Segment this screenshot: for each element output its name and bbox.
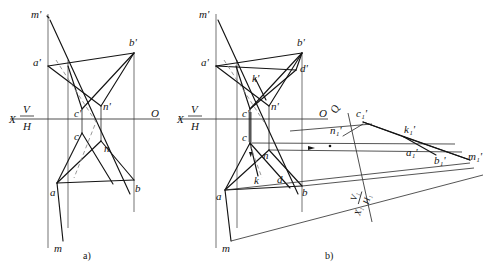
plane-direction-arrow: [308, 146, 315, 150]
edge-ap-bp: [48, 53, 134, 66]
label-a-h: H: [22, 120, 32, 132]
edge-cp-ap-side: [68, 66, 82, 109]
label-a-o: O: [151, 107, 159, 119]
label-a-c: c: [74, 130, 79, 142]
diagram-b: m' a' b' d' k' c' n' c n k d a b m c₁' k…: [176, 8, 483, 262]
plane-line-3: [269, 150, 462, 152]
label-b-x1: X₁: [352, 205, 364, 217]
line-mprime-frame: [48, 18, 73, 240]
label-b-a: a: [216, 190, 222, 202]
edge-b-c-a: [225, 143, 250, 190]
label-b-v1: V₁: [348, 191, 360, 202]
arrow-marker-b: [249, 152, 252, 157]
label-b-b-prime: b': [297, 36, 306, 48]
label-b-c-prime: c': [242, 107, 250, 119]
diagram-a: m' a' b' c' n' c n a b m X V H O a): [8, 8, 160, 262]
label-b-b: b: [302, 186, 308, 198]
label-b-k-prime: k': [252, 72, 260, 84]
label-b-x: X: [176, 113, 185, 125]
label-b-c: c: [242, 131, 247, 143]
edge-c-b: [82, 133, 113, 184]
plane-line-4: [302, 168, 474, 186]
label-b-c1-prime: c₁': [356, 107, 368, 119]
label-a-v: V: [23, 103, 31, 115]
label-a-c-prime: c': [74, 107, 82, 119]
label-b-n-prime: n': [271, 100, 280, 112]
label-b-n1-prime: n₁': [330, 124, 342, 136]
caption-b: b): [325, 250, 333, 262]
label-b-b1-prime: b₁': [434, 154, 446, 166]
label-b-a1-prime: a₁': [406, 146, 418, 158]
edge-n-a: [57, 141, 101, 183]
aux-axis-labels: X₁ V₁ H₁: [344, 189, 373, 219]
label-b-d: d: [277, 173, 283, 185]
line-m-to-a: [57, 183, 63, 241]
label-b-v: V: [191, 103, 199, 115]
label-b-k: k: [254, 174, 260, 186]
label-b-k1-prime: k₁': [404, 123, 416, 135]
label-b-m: m: [222, 242, 230, 254]
label-b-o: O: [319, 107, 327, 119]
edge-b-np-bp: [269, 53, 302, 106]
label-b-m-prime: m': [199, 8, 210, 20]
label-a-x: X: [8, 113, 17, 125]
edge-b-cp-side: [236, 66, 250, 109]
label-b-n: n: [263, 149, 269, 161]
tick-mprime: [47, 16, 49, 18]
edge-a-b: [57, 180, 134, 183]
descriptive-geometry-figure: m' a' b' c' n' c n a b m X V H O a): [0, 0, 487, 273]
line-b-m-to-a: [225, 190, 231, 241]
label-b-d-prime: d': [300, 62, 309, 74]
label-a-n-prime: n': [103, 100, 112, 112]
label-b-q: Q: [327, 103, 341, 114]
figure-canvas: m' a' b' c' n' c n a b m X V H O a): [0, 0, 487, 273]
label-b-h: H: [190, 120, 200, 132]
label-a-a-prime: a': [33, 56, 42, 68]
line-mp-to-lower: [50, 20, 130, 194]
plane-center-dot: [329, 145, 332, 148]
label-a-m-prime: m': [31, 8, 42, 20]
label-a-b-prime: b': [129, 36, 138, 48]
edge-b-ap-bp: [216, 53, 302, 66]
label-b-a-prime: a': [201, 56, 210, 68]
label-a-m: m: [54, 242, 62, 254]
plane-line-1: [225, 163, 470, 190]
label-a-b: b: [135, 182, 141, 194]
label-a-a: a: [50, 186, 56, 198]
label-a-n: n: [104, 142, 110, 154]
caption-a: a): [83, 250, 91, 262]
label-b-m1-prime: m₁': [468, 150, 483, 162]
edge-np-bp: [101, 53, 134, 106]
